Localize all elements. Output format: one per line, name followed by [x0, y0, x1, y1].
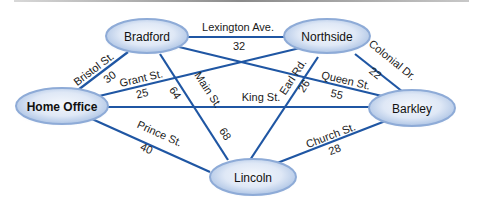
node-label-home-office: Home Office — [27, 100, 98, 114]
top-rule — [14, 0, 469, 2]
node-barkley: Barkley — [369, 90, 455, 126]
node-home-office: Home Office — [16, 88, 108, 124]
street-label-lexington: Lexington Ave. — [202, 21, 274, 33]
node-label-northside: Northside — [301, 30, 353, 44]
node-northside: Northside — [284, 19, 370, 53]
weight-label-queen: 55 — [330, 87, 345, 101]
weight-label-grant: 25 — [135, 86, 150, 100]
weight-label-prince: 40 — [139, 140, 155, 156]
node-label-lincoln: Lincoln — [234, 171, 272, 185]
node-label-barkley: Barkley — [392, 102, 432, 116]
weight-label-earl: 26 — [295, 77, 312, 94]
edges — [78, 37, 403, 172]
weight-label-main-b: 68 — [217, 125, 234, 142]
street-network-diagram: Lexington Ave. 32 Bristol St. 30 Grant S… — [0, 0, 484, 207]
node-bradford: Bradford — [106, 19, 188, 53]
street-label-king: King St. — [242, 91, 281, 103]
street-label-main: Main St. — [192, 70, 224, 110]
weight-label-lexington: 32 — [233, 40, 245, 52]
node-label-bradford: Bradford — [124, 30, 170, 44]
edge-church — [272, 120, 388, 165]
node-lincoln: Lincoln — [210, 159, 296, 195]
